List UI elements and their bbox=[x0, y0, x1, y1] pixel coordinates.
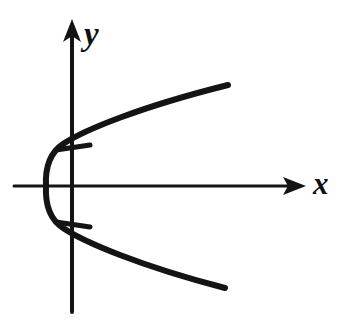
parabola-figure: y x bbox=[0, 0, 348, 326]
x-axis-label: x bbox=[313, 168, 329, 199]
figure-canvas bbox=[0, 0, 348, 326]
y-axis-label: y bbox=[84, 18, 99, 51]
